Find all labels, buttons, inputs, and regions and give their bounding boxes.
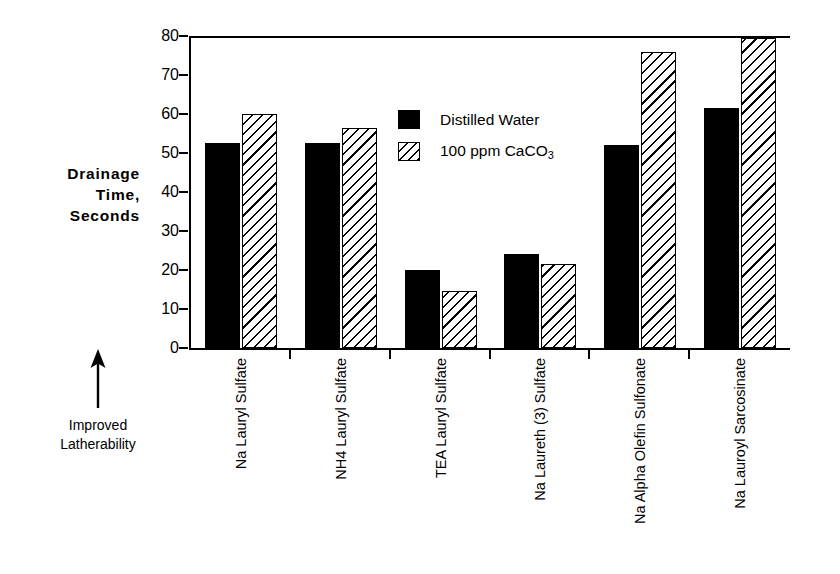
x-category-label: Na Lauryl Sulfate [233, 358, 248, 469]
chart-figure: Drainage Time, Seconds Improved Latherab… [0, 0, 840, 574]
y-tick-mark [179, 74, 188, 76]
legend-swatch-solid-icon [398, 110, 420, 129]
x-category-label: Na Laureth (3) Sulfate [533, 358, 548, 501]
x-category-label-slot: TEA Lauryl Sulfate [391, 358, 491, 568]
y-tick-label: 0 [135, 340, 179, 356]
legend-swatch-hatched-icon [398, 142, 420, 161]
bar [442, 291, 477, 348]
legend-label-calcium-carbonate-text: 100 ppm CaCO [440, 142, 548, 159]
y-tick-label: 30 [135, 223, 179, 239]
bar [641, 52, 676, 348]
y-tick-mark [179, 347, 188, 349]
bar [342, 128, 377, 348]
y-tick-mark [179, 191, 188, 193]
bar-series-container [191, 36, 790, 348]
x-category-label-slot: Na Lauroyl Sarcosinate [690, 358, 790, 568]
legend-label-calcium-carbonate: 100 ppm CaCO3 [440, 142, 554, 161]
legend-item-distilled-water: Distilled Water [398, 106, 628, 132]
bar [305, 143, 340, 348]
chart-legend: Distilled Water 100 ppm CaCO3 [398, 106, 628, 170]
x-category-label: TEA Lauryl Sulfate [433, 358, 448, 478]
y-tick-mark [179, 152, 188, 154]
annotation-line-1: Improved [18, 416, 178, 435]
bar [405, 270, 440, 348]
bar [541, 264, 576, 348]
y-tick-mark [179, 35, 188, 37]
annotation-line-2: Latherability [18, 435, 178, 454]
y-tick-mark [179, 113, 188, 115]
x-category-label: NH4 Lauryl Sulfate [333, 358, 348, 480]
bar [504, 254, 539, 348]
y-tick-label: 20 [135, 262, 179, 278]
y-axis-title: Drainage Time, Seconds [10, 163, 140, 226]
legend-item-calcium-carbonate: 100 ppm CaCO3 [398, 138, 628, 164]
y-axis-title-line-3: Seconds [10, 205, 140, 226]
y-tick-label: 10 [135, 301, 179, 317]
y-tick-label: 50 [135, 145, 179, 161]
y-tick-mark [179, 230, 188, 232]
x-category-label: Na Lauroyl Sarcosinate [733, 358, 748, 509]
bar [242, 114, 277, 348]
improved-latherability-caption: Improved Latherability [18, 416, 178, 454]
x-category-label-slot: NH4 Lauryl Sulfate [291, 358, 391, 568]
x-axis-category-labels: Na Lauryl SulfateNH4 Lauryl SulfateTEA L… [191, 358, 790, 568]
bar [604, 145, 639, 348]
bar [205, 143, 240, 348]
y-axis-title-line-1: Drainage [10, 163, 140, 184]
y-tick-mark [179, 308, 188, 310]
legend-label-distilled-water: Distilled Water [440, 111, 539, 128]
bar [704, 108, 739, 348]
x-category-label-slot: Na Laureth (3) Sulfate [491, 358, 591, 568]
improved-latherability-annotation: Improved Latherability [18, 348, 178, 454]
y-axis-ticks: 01020304050607080 [129, 36, 179, 350]
legend-label-calcium-carbonate-subscript: 3 [548, 149, 554, 161]
x-category-label: Na Alpha Olefin Sulfonate [633, 358, 648, 524]
y-tick-mark [179, 269, 188, 271]
up-arrow-icon [85, 348, 111, 410]
x-category-label-slot: Na Lauryl Sulfate [191, 358, 291, 568]
y-tick-label: 80 [135, 28, 179, 44]
y-tick-label: 40 [135, 184, 179, 200]
y-tick-label: 60 [135, 106, 179, 122]
x-category-label-slot: Na Alpha Olefin Sulfonate [590, 358, 690, 568]
bar [741, 38, 776, 348]
y-axis-title-line-2: Time, [10, 184, 140, 205]
y-tick-label: 70 [135, 67, 179, 83]
